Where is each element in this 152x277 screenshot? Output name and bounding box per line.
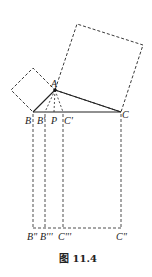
line-a-c-prime	[55, 90, 63, 112]
side-ac	[55, 90, 121, 112]
figure-caption: 图 11.4	[59, 253, 97, 264]
label-b-prime: B'	[37, 115, 46, 126]
line-a-p	[54, 90, 55, 112]
side-ab	[33, 90, 55, 112]
label-c-prime: C'	[64, 115, 74, 126]
label-b-triple-prime: B'''	[40, 231, 53, 242]
label-c: C	[122, 109, 129, 120]
line-a-b-prime	[45, 90, 55, 112]
label-p: P	[50, 115, 57, 126]
label-a: A	[50, 78, 58, 89]
label-c-double-prime: C"	[116, 231, 128, 242]
label-b: B	[25, 115, 31, 126]
square-on-ac	[55, 24, 143, 112]
label-b-double-prime: B"	[27, 231, 38, 242]
label-c-triple-prime: C'''	[58, 231, 72, 242]
geometry-diagram: A B B' P C' C B" B''' C''' C" 图 11.4	[0, 0, 152, 277]
